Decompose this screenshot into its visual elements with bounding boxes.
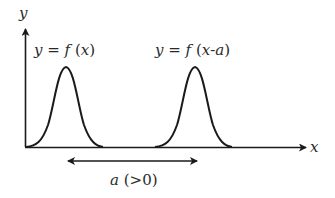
curve-label-f-x: y = f (x) — [33, 41, 95, 59]
curve-f-x-minus-a — [155, 67, 232, 147]
shift-label: a (>0) — [110, 171, 158, 189]
y-axis-label: y — [18, 4, 28, 22]
curve-f-x — [26, 67, 103, 147]
x-axis-label: x — [310, 138, 319, 156]
curve-label-f-x-minus-a: y = f (x-a) — [154, 41, 230, 59]
translation-diagram: y x y = f (x) y = f (x-a) a (>0) — [0, 0, 335, 198]
